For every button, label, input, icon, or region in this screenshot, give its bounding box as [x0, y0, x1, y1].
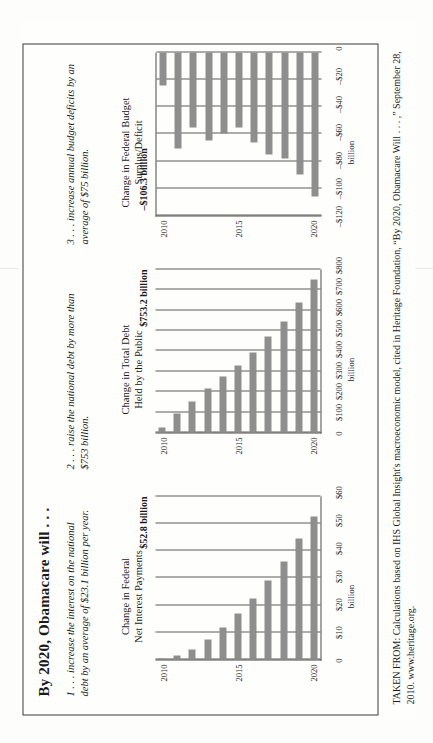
bar [189, 650, 196, 660]
bar [295, 302, 302, 432]
bar [250, 598, 257, 659]
panel-blurb-1: 1 . . . increase the interest on the nat… [64, 507, 91, 697]
bar [280, 321, 287, 432]
bar [205, 53, 212, 141]
y-axis-tick-label: –$120 [334, 206, 344, 227]
bar [250, 352, 257, 432]
x-axis-tick-label: 2015 [234, 438, 244, 472]
chart-total-debt-held-by-public: $800$700$600$500$400$300$200$1000billion… [152, 266, 348, 474]
x-axis-tick-label: 2010 [158, 438, 168, 472]
bar [160, 53, 167, 86]
bar [204, 640, 211, 660]
x-axis-tick-label: 2020 [309, 221, 319, 255]
y-axis-tick-label: $700 [334, 278, 344, 295]
y-axis-title: billion [346, 585, 356, 609]
bar [310, 516, 317, 659]
bar [220, 53, 227, 135]
bar [234, 365, 241, 432]
rotated-page-content: By 2020, Obamacare will . . . 1 . . . in… [19, 22, 416, 722]
y-axis-tick-label: $40 [334, 542, 344, 555]
x-axis-tick-label: 2015 [234, 221, 244, 255]
bar [174, 413, 181, 432]
bar [235, 53, 242, 128]
y-axis-tick-label: $20 [334, 598, 344, 611]
y-axis-title: billion [346, 141, 356, 165]
bar-series [160, 53, 319, 216]
y-axis-tick-label: $400 [334, 341, 344, 358]
bar [159, 428, 166, 433]
x-axis-tick-label: 2015 [234, 665, 244, 699]
y-axis-tick-label: $800 [334, 257, 344, 274]
bar [265, 337, 272, 433]
y-axis-title: billion [346, 358, 356, 382]
x-axis-tick-label: 2010 [158, 221, 168, 255]
bar [189, 402, 196, 433]
x-axis-tick-label: 2010 [158, 665, 168, 699]
bar [310, 279, 317, 432]
bar [251, 53, 258, 143]
x-axis-tick-label: 2020 [309, 665, 319, 699]
bar [234, 613, 241, 659]
plot-area [156, 497, 322, 661]
y-axis-tick-label: 0 [334, 658, 344, 662]
bar [281, 53, 288, 159]
bar-series [159, 497, 318, 660]
value-callout: $52.8 billion [138, 497, 149, 549]
bar [175, 53, 182, 149]
value-callout: $753.2 billion [138, 270, 149, 327]
chart-net-interest-payments: $60$50$40$30$20$100billion201020152020$5… [152, 493, 348, 701]
scanned-page-background: By 2020, Obamacare will . . . 1 . . . in… [0, 0, 433, 743]
bar [296, 53, 303, 175]
y-axis-tick-label: $200 [334, 383, 344, 400]
y-axis-tick-label: $500 [334, 320, 344, 337]
y-axis-tick-label: –$100 [334, 178, 344, 199]
bar [265, 581, 272, 660]
y-axis-tick-label: $300 [334, 362, 344, 379]
bar [311, 53, 318, 197]
bar [204, 389, 211, 433]
figure-frame: By 2020, Obamacare will . . . 1 . . . in… [23, 44, 379, 716]
bar [190, 53, 197, 128]
bar [219, 627, 226, 659]
panel-blurb-3: 3 . . . increase annual budget deficits … [64, 55, 91, 245]
bar [174, 655, 181, 659]
y-axis-tick-label: $60 [334, 486, 344, 499]
y-axis-tick-label: –$60 [334, 124, 344, 141]
x-axis-tick-label: 2020 [309, 438, 319, 472]
y-axis-tick-label: $100 [334, 404, 344, 421]
chart-budget-surplus-deficit: 0–$20–$40–$60–$80–$100–$120billion201020… [152, 49, 348, 257]
bar [280, 562, 287, 660]
value-callout: –$106.3 billion [138, 148, 149, 210]
bar-series [159, 270, 318, 433]
plot-area [156, 53, 322, 217]
y-axis-tick-label: –$80 [334, 152, 344, 169]
bar [295, 539, 302, 660]
y-axis-tick-label: $50 [334, 514, 344, 527]
y-axis-tick-label: $30 [334, 570, 344, 583]
source-note: TAKEN FROM: Calculations based on IHS Gl… [390, 45, 417, 705]
plot-area [156, 270, 322, 434]
bar [266, 53, 273, 155]
bar [219, 376, 226, 432]
page-title: By 2020, Obamacare will . . . [36, 508, 53, 697]
y-axis-tick-label: $600 [334, 299, 344, 316]
panel-blurb-2: 2 . . . raise the national debt by more … [64, 280, 91, 470]
y-axis-tick-label: –$20 [334, 68, 344, 85]
y-axis-tick-label: –$40 [334, 96, 344, 113]
y-axis-tick-label: 0 [334, 46, 344, 50]
y-axis-tick-label: $10 [334, 626, 344, 639]
bar [159, 658, 166, 659]
y-axis-tick-label: 0 [334, 431, 344, 435]
